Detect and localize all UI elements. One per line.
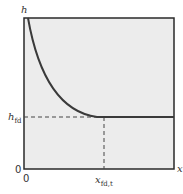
origin-x-label: 0 (23, 174, 29, 184)
plot-area (24, 18, 174, 169)
h-fd-label: hfd (8, 112, 22, 125)
y-axis-label: h (21, 5, 27, 15)
x-fd-t-label: xfd,t (95, 175, 113, 188)
plot (0, 0, 183, 194)
origin-y-label: 0 (15, 165, 21, 175)
x-axis-label: x (177, 164, 183, 174)
